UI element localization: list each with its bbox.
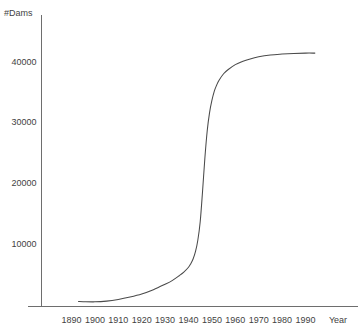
chart-canvas: #Dams Year 10000200003000040000 18901900… bbox=[0, 0, 360, 330]
data-curve bbox=[79, 53, 315, 302]
x-tick-label: 1990 bbox=[295, 315, 315, 325]
dams-over-time-chart: #Dams Year 10000200003000040000 18901900… bbox=[0, 0, 360, 330]
x-tick-label: 1950 bbox=[202, 315, 222, 325]
y-tick-label: 20000 bbox=[11, 178, 36, 188]
x-tick-label: 1900 bbox=[85, 315, 105, 325]
x-tick-label: 1890 bbox=[61, 315, 81, 325]
x-axis-title: Year bbox=[329, 315, 347, 325]
x-tick-label: 1970 bbox=[249, 315, 269, 325]
x-tick-labels: 1890190019101920193019401950196019701980… bbox=[61, 315, 315, 325]
data-series-group bbox=[79, 53, 315, 302]
y-tick-label: 10000 bbox=[11, 239, 36, 249]
y-tick-label: 40000 bbox=[11, 57, 36, 67]
x-tick-label: 1910 bbox=[108, 315, 128, 325]
y-tick-labels: 10000200003000040000 bbox=[11, 57, 36, 249]
x-tick-label: 1940 bbox=[178, 315, 198, 325]
x-tick-label: 1960 bbox=[225, 315, 245, 325]
y-axis-title: #Dams bbox=[4, 8, 33, 18]
y-tick-label: 30000 bbox=[11, 117, 36, 127]
x-tick-label: 1930 bbox=[155, 315, 175, 325]
x-tick-label: 1920 bbox=[132, 315, 152, 325]
x-tick-label: 1980 bbox=[272, 315, 292, 325]
